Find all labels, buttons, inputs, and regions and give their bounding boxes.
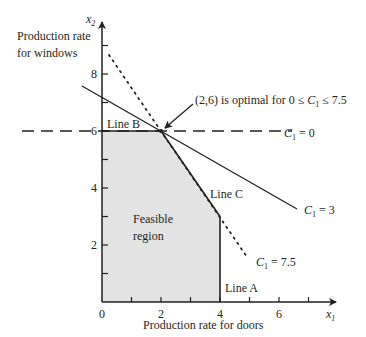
line-c-label: Line C [210, 187, 243, 201]
y-axis-title-line1: Production rate [17, 29, 91, 43]
annotation-arrow [165, 104, 193, 128]
x-axis-variable: x1 [325, 307, 335, 323]
x-tick-6: 6 [276, 307, 282, 321]
y-tick-8: 8 [91, 67, 97, 81]
objective-label-c1-3: C1 = 3 [304, 203, 335, 219]
x-axis-title: Production rate for doors [143, 318, 264, 332]
lp-graph: 0 2 4 6 2 4 6 8 x2 x1 Production rate fo… [0, 0, 366, 337]
y-tick-4: 4 [91, 181, 97, 195]
optimal-point [159, 129, 163, 133]
optimal-annotation: (2,6) is optimal for 0 ≤ C1 ≤ 7.5 [195, 93, 347, 109]
line-b-label: Line B [107, 117, 140, 131]
x-tick-0: 0 [99, 307, 105, 321]
objective-label-c1-0: C1 = 0 [284, 126, 315, 142]
y-axis-title-line2: for windows [17, 46, 78, 60]
feasible-region-label-line2: region [133, 229, 164, 243]
objective-label-c1-7-5: C1 = 7.5 [256, 255, 296, 271]
y-tick-2: 2 [91, 238, 97, 252]
y-axis-variable: x2 [85, 12, 95, 28]
y-tick-6: 6 [91, 124, 97, 138]
line-a-label: Line A [225, 281, 258, 295]
feasible-region-label-line1: Feasible [133, 212, 173, 226]
